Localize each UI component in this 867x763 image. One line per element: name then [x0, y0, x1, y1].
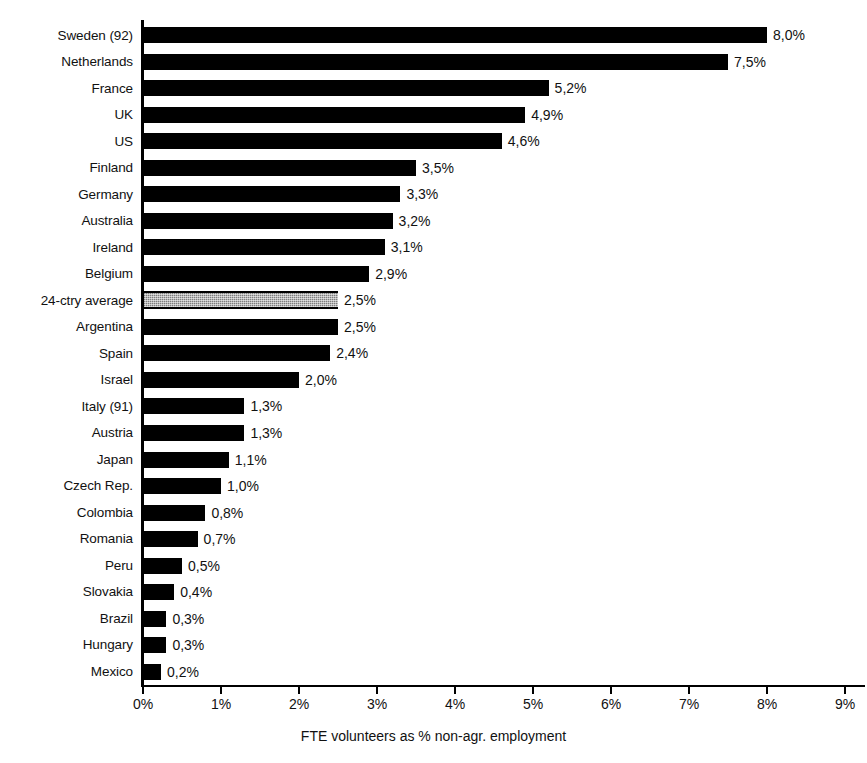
category-label: Israel: [0, 373, 133, 387]
bar-track: 0,5%: [143, 552, 867, 579]
chart-row: Romania0,7%: [0, 526, 867, 553]
bar-track: 3,5%: [143, 155, 867, 182]
category-label: Japan: [0, 453, 133, 467]
bar-value-label: 0,4%: [180, 585, 212, 599]
category-label: Germany: [0, 188, 133, 202]
bar: [143, 452, 229, 468]
x-axis-title: FTE volunteers as % non-agr. employment: [0, 729, 867, 743]
bar-track: 0,7%: [143, 526, 867, 553]
x-axis-tick-label: 8%: [757, 697, 777, 711]
chart-row: Colombia0,8%: [0, 499, 867, 526]
bar-track: 5,2%: [143, 75, 867, 102]
bar: [143, 54, 728, 70]
bar: [143, 611, 166, 627]
bar-value-label: 1,0%: [227, 479, 259, 493]
bar-track: 4,9%: [143, 102, 867, 129]
bar-track: 0,8%: [143, 499, 867, 526]
x-axis-tick-label: 5%: [523, 697, 543, 711]
bar-value-label: 0,3%: [172, 612, 204, 626]
chart-row: Sweden (92)8,0%: [0, 22, 867, 49]
chart-row: Czech Rep.1,0%: [0, 473, 867, 500]
chart-row: Ireland3,1%: [0, 234, 867, 261]
bar-value-label: 0,7%: [204, 532, 236, 546]
bar: [143, 531, 198, 547]
x-axis-tick-label: 3%: [367, 697, 387, 711]
chart-row: Australia3,2%: [0, 208, 867, 235]
bar-value-label: 0,2%: [167, 665, 199, 679]
bar-value-label: 0,3%: [172, 638, 204, 652]
x-axis-tick-label: 0%: [133, 697, 153, 711]
category-label: Finland: [0, 161, 133, 175]
bar-track: 7,5%: [143, 49, 867, 76]
bar-chart: Sweden (92)8,0%Netherlands7,5%France5,2%…: [0, 0, 867, 763]
bar-track: 0,3%: [143, 605, 867, 632]
chart-row: US4,6%: [0, 128, 867, 155]
chart-row: Belgium2,9%: [0, 261, 867, 288]
bar: [143, 266, 369, 282]
bar-value-label: 2,9%: [375, 267, 407, 281]
category-label: Colombia: [0, 506, 133, 520]
category-label: Sweden (92): [0, 29, 133, 43]
chart-row: Slovakia0,4%: [0, 579, 867, 606]
bar-track: 3,2%: [143, 208, 867, 235]
bar-highlight: [143, 291, 338, 309]
x-axis-tick-label: 4%: [445, 697, 465, 711]
chart-row: Germany3,3%: [0, 181, 867, 208]
bar-value-label: 4,6%: [508, 134, 540, 148]
bar-value-label: 8,0%: [773, 28, 805, 42]
bar-value-label: 3,3%: [406, 187, 438, 201]
chart-row: Spain2,4%: [0, 340, 867, 367]
chart-row: Japan1,1%: [0, 446, 867, 473]
bar-value-label: 3,2%: [399, 214, 431, 228]
bar-track: 8,0%: [143, 22, 867, 49]
category-label: Brazil: [0, 612, 133, 626]
chart-row: UK4,9%: [0, 102, 867, 129]
bar-track: 3,3%: [143, 181, 867, 208]
bar: [143, 664, 161, 680]
bar-value-label: 1,3%: [250, 399, 282, 413]
x-axis-tick: [298, 685, 300, 694]
category-label: Hungary: [0, 638, 133, 652]
chart-row: Argentina2,5%: [0, 314, 867, 341]
x-axis-tick: [142, 685, 144, 694]
bar: [143, 478, 221, 494]
bar-track: 0,4%: [143, 579, 867, 606]
bar-value-label: 5,2%: [555, 81, 587, 95]
bar: [143, 319, 338, 335]
bar-track: 1,0%: [143, 473, 867, 500]
category-label: Mexico: [0, 665, 133, 679]
bar: [143, 398, 244, 414]
bar-value-label: 3,1%: [391, 240, 423, 254]
chart-row: Netherlands7,5%: [0, 49, 867, 76]
x-axis-tick: [454, 685, 456, 694]
category-label: 24-ctry average: [0, 294, 133, 308]
chart-row: Peru0,5%: [0, 552, 867, 579]
chart-row: Hungary0,3%: [0, 632, 867, 659]
bar-track: 1,3%: [143, 393, 867, 420]
bar: [143, 372, 299, 388]
x-axis-tick-label: 2%: [289, 697, 309, 711]
category-label: Spain: [0, 347, 133, 361]
bar: [143, 80, 549, 96]
x-axis-tick-label: 7%: [679, 697, 699, 711]
chart-row: 24-ctry average2,5%: [0, 287, 867, 314]
bar-track: 2,5%: [143, 314, 867, 341]
bar-track: 1,1%: [143, 446, 867, 473]
category-label: Slovakia: [0, 585, 133, 599]
category-label: Italy (91): [0, 400, 133, 414]
bar: [143, 213, 393, 229]
chart-row: Israel2,0%: [0, 367, 867, 394]
bar-track: 3,1%: [143, 234, 867, 261]
chart-row: Mexico0,2%: [0, 658, 867, 685]
y-axis-line: [141, 20, 144, 687]
category-label: Argentina: [0, 320, 133, 334]
chart-row: Italy (91)1,3%: [0, 393, 867, 420]
bar: [143, 133, 502, 149]
bar: [143, 27, 767, 43]
bar: [143, 637, 166, 653]
category-label: UK: [0, 108, 133, 122]
x-axis-tick: [688, 685, 690, 694]
category-label: Ireland: [0, 241, 133, 255]
bar-value-label: 1,1%: [235, 453, 267, 467]
bar-value-label: 2,5%: [344, 293, 376, 307]
